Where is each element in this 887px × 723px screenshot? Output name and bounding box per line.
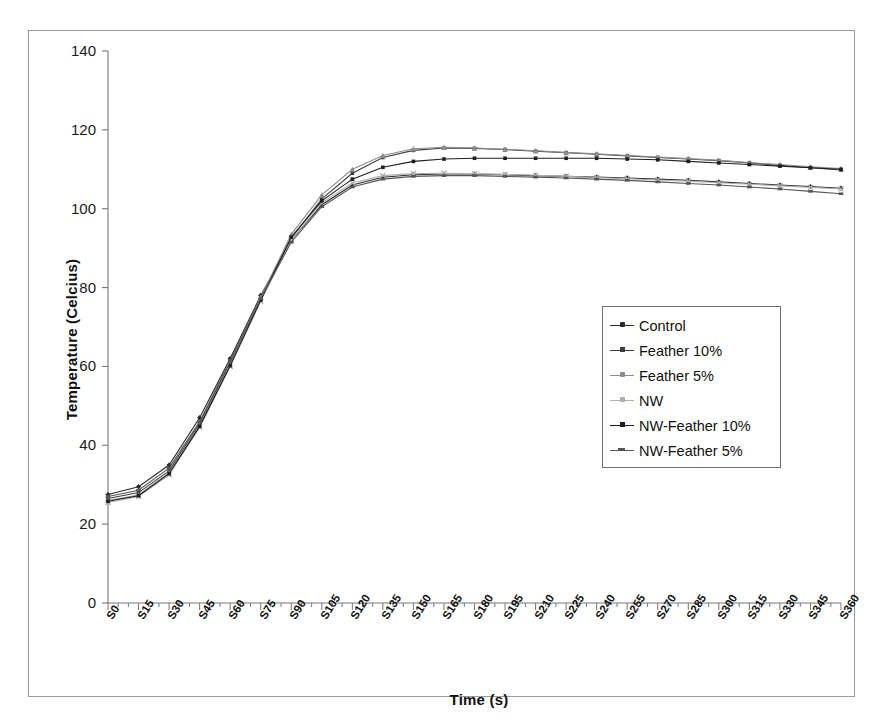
y-tick-label: 80: [56, 279, 96, 296]
legend-key-icon: [609, 420, 635, 432]
data-point: [289, 241, 294, 244]
data-point: [197, 420, 202, 423]
data-point: [839, 167, 843, 171]
y-tick-label: 140: [56, 42, 96, 59]
legend-item-label: Feather 5%: [639, 368, 714, 384]
data-point: [717, 184, 722, 187]
data-point: [625, 157, 629, 161]
data-point: [167, 467, 172, 470]
legend-marker-swatch: [618, 448, 625, 451]
data-point: [258, 297, 263, 300]
data-point: [442, 174, 447, 177]
data-point: [381, 166, 385, 170]
legend-item: NW-Feather 5%: [609, 438, 774, 463]
data-point: [534, 156, 538, 160]
data-point: [473, 156, 477, 160]
legend-marker-swatch: [620, 322, 625, 327]
data-point: [350, 166, 356, 172]
data-point: [717, 161, 721, 165]
data-point: [472, 174, 477, 177]
data-point: [595, 156, 599, 160]
y-axis-title: Temperature (Celcius): [63, 230, 80, 450]
data-point: [839, 192, 844, 195]
data-point: [533, 176, 538, 179]
data-point: [319, 205, 324, 208]
legend-marker-swatch: [620, 347, 625, 352]
y-axis-ticks: [102, 51, 108, 603]
legend-item-label: NW-Feather 5%: [639, 443, 743, 459]
legend-item: Feather 5%: [609, 363, 774, 388]
legend-key-icon: [609, 395, 635, 407]
legend-key-icon: [609, 320, 635, 332]
data-point: [656, 158, 660, 162]
data-point: [809, 166, 813, 170]
data-point: [747, 186, 752, 189]
data-point: [320, 199, 324, 203]
data-point: [167, 472, 171, 476]
legend-marker-swatch: [620, 397, 625, 402]
data-point: [381, 178, 386, 181]
data-point: [289, 235, 293, 239]
data-point: [655, 181, 660, 184]
data-point: [351, 177, 355, 181]
data-point: [503, 156, 507, 160]
chart-figure: Temperature (Celcius) Time (s) 020406080…: [0, 0, 887, 723]
y-tick-label: 120: [56, 121, 96, 138]
data-point: [594, 178, 599, 181]
legend-item-label: Control: [639, 318, 686, 334]
data-point: [748, 163, 752, 167]
legend-item: NW: [609, 388, 774, 413]
data-point: [411, 175, 416, 178]
chart-legend: ControlFeather 10%Feather 5%NWNW-Feather…: [602, 306, 781, 468]
legend-key-icon: [609, 345, 635, 357]
legend-item-label: NW-Feather 10%: [639, 418, 751, 434]
legend-item-label: Feather 10%: [639, 343, 722, 359]
y-tick-label: 20: [56, 515, 96, 532]
legend-key-icon: [609, 370, 635, 382]
legend-item-label: NW: [639, 393, 663, 409]
data-point: [625, 179, 630, 182]
data-point: [412, 160, 416, 164]
data-point: [686, 160, 690, 164]
y-tick-label: 0: [56, 594, 96, 611]
legend-marker-swatch: [620, 422, 625, 427]
data-point: [564, 177, 569, 180]
data-point: [503, 175, 508, 178]
data-point: [564, 156, 568, 160]
data-point: [106, 499, 110, 503]
data-point: [106, 495, 111, 498]
y-tick-label: 100: [56, 200, 96, 217]
legend-marker-swatch: [620, 372, 625, 377]
data-point: [228, 364, 232, 368]
data-point: [686, 182, 691, 185]
data-point: [136, 489, 141, 492]
data-point: [137, 494, 141, 498]
legend-item: Control: [609, 313, 774, 338]
y-tick-label: 60: [56, 357, 96, 374]
data-point: [198, 425, 202, 429]
legend-item: NW-Feather 10%: [609, 413, 774, 438]
data-point: [778, 188, 783, 191]
data-point: [228, 359, 233, 362]
legend-key-icon: [609, 445, 635, 457]
data-point: [442, 157, 446, 161]
data-point: [350, 186, 355, 189]
x-axis-title: Time (s): [399, 691, 559, 708]
data-point: [778, 164, 782, 168]
y-tick-label: 40: [56, 436, 96, 453]
legend-item: Feather 10%: [609, 338, 774, 363]
data-point: [808, 190, 813, 193]
figure-border: Temperature (Celcius) Time (s) 020406080…: [28, 30, 855, 697]
